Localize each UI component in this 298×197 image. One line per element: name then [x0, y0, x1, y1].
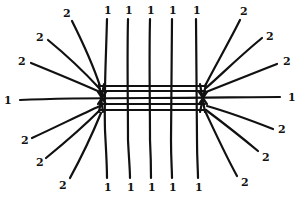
label-2-br-1: 2	[278, 123, 286, 136]
label-bottom-3: 1	[148, 181, 156, 194]
label-right-1: 1	[288, 91, 296, 104]
label-2-tl-1: 2	[63, 7, 71, 20]
label-2-tl-3: 2	[18, 55, 26, 68]
strand-2-tr-1	[205, 20, 240, 86]
label-top-4: 1	[169, 4, 177, 17]
label-2-br-2: 2	[262, 151, 270, 164]
label-top-5: 1	[193, 4, 201, 17]
label-2-br-3: 2	[241, 176, 249, 189]
label-2-tr-3: 2	[283, 55, 291, 68]
label-bottom-1: 1	[104, 181, 112, 194]
label-2-bl-1: 2	[21, 134, 29, 147]
label-bottom-4: 1	[169, 181, 177, 194]
label-top-3: 1	[147, 4, 155, 17]
label-2-tl-2: 2	[36, 31, 44, 44]
label-top-1: 1	[104, 4, 112, 17]
label-left-1: 1	[4, 94, 12, 107]
label-2-tr-1: 2	[240, 5, 248, 18]
label-bottom-2: 1	[127, 181, 135, 194]
strand-2-tl-1	[72, 21, 100, 86]
label-2-tr-2: 2	[266, 30, 274, 43]
label-top-2: 1	[125, 4, 133, 17]
label-bottom-5: 1	[195, 181, 203, 194]
strands	[20, 19, 280, 178]
label-2-bl-3: 2	[59, 179, 67, 192]
woven-strand-diagram: 1 1 1 1 1 1 1 1 1 1 1 1 2 2 2 2 2 2 2 2 …	[0, 0, 298, 197]
label-2-bl-2: 2	[36, 156, 44, 169]
strand-2-bl-1	[32, 106, 100, 138]
